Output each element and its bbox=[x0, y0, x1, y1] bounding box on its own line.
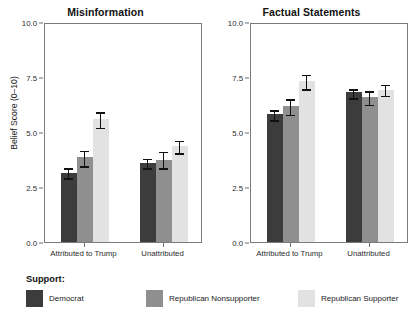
error-bar-cap-top bbox=[270, 110, 279, 112]
legend-label: Republican Supporter bbox=[321, 294, 398, 303]
y-tick-mark bbox=[39, 243, 43, 244]
legend-label: Republican Nonsupporter bbox=[169, 294, 260, 303]
error-bar bbox=[84, 152, 86, 167]
error-bar-cap-bottom bbox=[349, 98, 358, 100]
error-bar bbox=[163, 153, 165, 170]
legend-items: DemocratRepublican NonsupporterRepublica… bbox=[26, 290, 415, 312]
error-bar-cap-top bbox=[96, 112, 105, 114]
x-tick-mark bbox=[290, 243, 291, 247]
legend-label: Democrat bbox=[49, 294, 84, 303]
plot-inner bbox=[251, 24, 407, 242]
error-bar-cap-bottom bbox=[286, 115, 295, 117]
panel-misinformation: Misinformation Belief Score (0–10) 0.02.… bbox=[6, 0, 205, 272]
legend: Support: DemocratRepublican Nonsupporter… bbox=[26, 272, 415, 321]
legend-swatch bbox=[26, 290, 43, 307]
legend-swatch bbox=[146, 290, 163, 307]
y-tick-label: 7.5 bbox=[6, 74, 37, 83]
bar bbox=[77, 157, 93, 242]
error-bar-cap-top bbox=[143, 159, 152, 161]
error-bar-cap-bottom bbox=[270, 120, 279, 122]
x-tick-label: Attributed to Trump bbox=[50, 249, 116, 258]
error-bar-cap-top bbox=[381, 85, 390, 87]
error-bar-cap-top bbox=[64, 168, 73, 170]
legend-swatch bbox=[298, 290, 315, 307]
error-bar bbox=[306, 76, 308, 90]
bar bbox=[378, 90, 394, 242]
y-tick-label: 5.0 bbox=[6, 129, 37, 138]
error-bar-cap-top bbox=[159, 152, 168, 154]
error-bar-cap-top bbox=[175, 141, 184, 143]
plot-area bbox=[250, 23, 408, 243]
bar bbox=[61, 173, 77, 242]
y-tick-mark bbox=[245, 243, 249, 244]
x-tick-label: Attributed to Trump bbox=[256, 249, 322, 258]
error-bar-cap-bottom bbox=[302, 89, 311, 91]
legend-title: Support: bbox=[26, 274, 65, 284]
x-tick-mark bbox=[84, 243, 85, 247]
y-tick-label: 0.0 bbox=[212, 239, 243, 248]
error-bar-cap-bottom bbox=[64, 178, 73, 180]
y-tick-label: 5.0 bbox=[212, 129, 243, 138]
error-bar-cap-top bbox=[80, 151, 89, 153]
y-tick-mark bbox=[245, 78, 249, 79]
y-tick-label: 2.5 bbox=[6, 184, 37, 193]
bar bbox=[172, 146, 188, 242]
x-tick-mark bbox=[163, 243, 164, 247]
error-bar-cap-top bbox=[365, 91, 374, 93]
error-bar-cap-bottom bbox=[175, 153, 184, 155]
panel-factual-statements: Factual Statements 0.02.55.07.510.0 Attr… bbox=[212, 0, 411, 272]
x-tick-mark bbox=[369, 243, 370, 247]
y-tick-label: 0.0 bbox=[6, 239, 37, 248]
error-bar bbox=[100, 113, 102, 128]
bar bbox=[299, 81, 315, 242]
error-bar-cap-top bbox=[302, 75, 311, 77]
y-tick-mark bbox=[245, 133, 249, 134]
error-bar-cap-bottom bbox=[381, 96, 390, 98]
bar bbox=[362, 97, 378, 242]
bar bbox=[93, 119, 109, 242]
y-axis-ticks: 0.02.55.07.510.0 bbox=[212, 0, 250, 272]
plot-area bbox=[44, 23, 202, 243]
bar bbox=[346, 92, 362, 242]
bar bbox=[156, 160, 172, 243]
y-tick-label: 10.0 bbox=[6, 19, 37, 28]
y-tick-mark bbox=[39, 78, 43, 79]
error-bar-cap-bottom bbox=[96, 128, 105, 130]
x-tick-label: Unattributed bbox=[347, 249, 389, 258]
y-tick-label: 10.0 bbox=[212, 19, 243, 28]
error-bar-cap-bottom bbox=[80, 166, 89, 168]
y-tick-label: 7.5 bbox=[212, 74, 243, 83]
y-axis-ticks: 0.02.55.07.510.0 bbox=[6, 0, 44, 272]
error-bar bbox=[369, 92, 371, 105]
y-tick-label: 2.5 bbox=[212, 184, 243, 193]
error-bar-cap-bottom bbox=[365, 105, 374, 107]
bar bbox=[267, 114, 283, 242]
y-tick-mark bbox=[245, 23, 249, 24]
y-tick-mark bbox=[245, 188, 249, 189]
figure: Misinformation Belief Score (0–10) 0.02.… bbox=[0, 0, 415, 321]
plot-inner bbox=[45, 24, 201, 242]
x-tick-label: Unattributed bbox=[141, 249, 183, 258]
bar bbox=[283, 106, 299, 242]
y-tick-mark bbox=[39, 23, 43, 24]
error-bar bbox=[179, 142, 181, 154]
error-bar-cap-top bbox=[286, 99, 295, 101]
bar bbox=[140, 163, 156, 242]
y-tick-mark bbox=[39, 133, 43, 134]
error-bar-cap-bottom bbox=[159, 168, 168, 170]
error-bar bbox=[290, 100, 292, 115]
y-tick-mark bbox=[39, 188, 43, 189]
error-bar-cap-bottom bbox=[143, 168, 152, 170]
error-bar-cap-top bbox=[349, 89, 358, 91]
